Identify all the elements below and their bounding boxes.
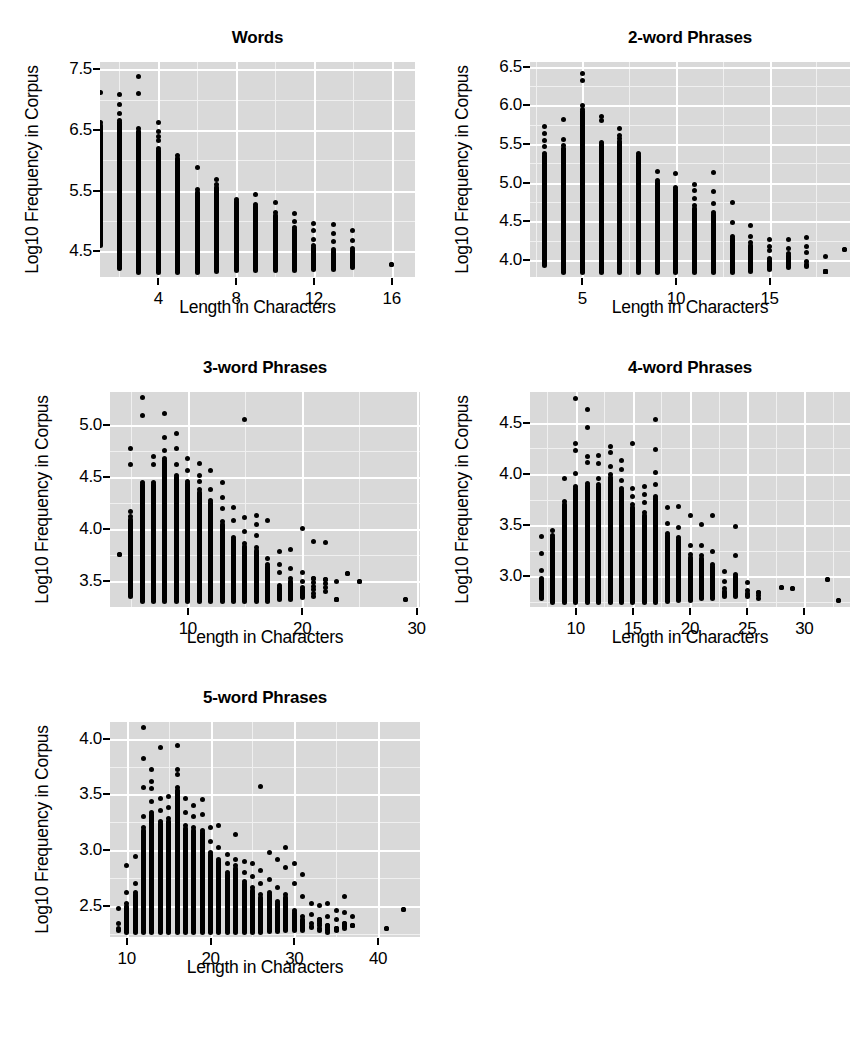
y-tick-mark — [103, 793, 110, 795]
y-tick-label: 2.5 — [64, 896, 102, 916]
y-tick-label: 3.0 — [64, 840, 102, 860]
x-tick-mark — [293, 938, 295, 945]
y-tick-mark — [103, 849, 110, 851]
x-tick-label: 20 — [201, 949, 219, 969]
y-tick-mark — [103, 905, 110, 907]
panel-title-phrases-5: 5-word Phrases — [110, 688, 420, 708]
y-tick-mark — [103, 738, 110, 740]
data-column-x43 — [110, 722, 420, 937]
y-tick-label: 3.5 — [64, 784, 102, 804]
x-tick-mark — [210, 938, 212, 945]
x-tick-label: 30 — [285, 949, 303, 969]
data-point-outlier — [401, 907, 406, 912]
facet-panel-phrases-5: 5-word PhrasesLog10 Frequency in CorpusL… — [0, 0, 858, 1037]
x-tick-mark — [377, 938, 379, 945]
x-tick-label: 40 — [369, 949, 387, 969]
figure-root: WordsLog10 Frequency in CorpusLength in … — [0, 0, 858, 1037]
x-tick-mark — [126, 938, 128, 945]
plot-area-phrases-5 — [110, 722, 420, 937]
y-axis-label-phrases-5: Log10 Frequency in Corpus — [32, 722, 53, 937]
y-tick-label: 4.0 — [64, 729, 102, 749]
x-tick-label: 10 — [118, 949, 136, 969]
